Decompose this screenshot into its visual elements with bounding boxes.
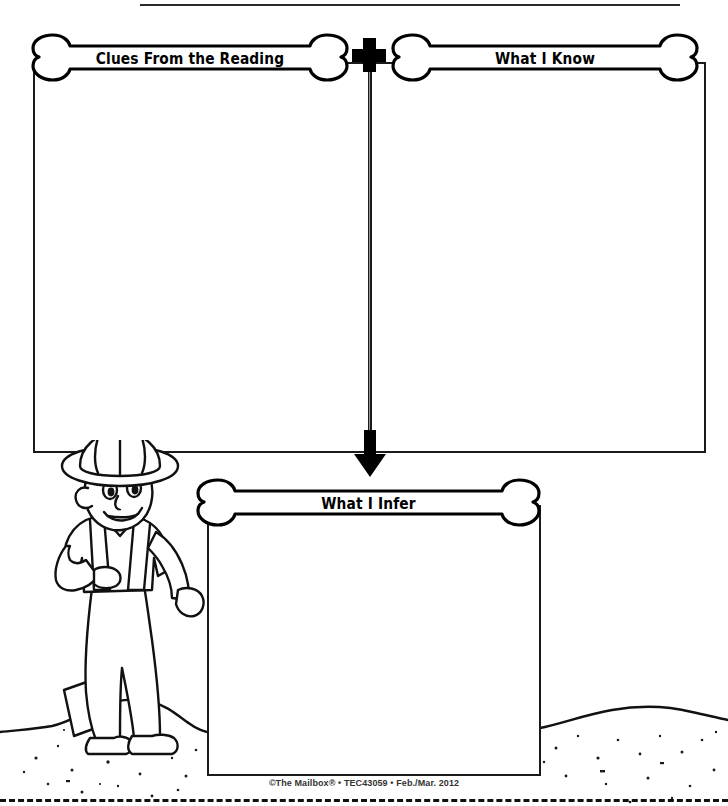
bone-banner-clues: Clues From the Reading (25, 27, 355, 89)
worksheet-page: Clues From the Reading What I Know (0, 0, 728, 806)
copyright-credit: ©The Mailbox® • TEC43059 • Feb./Mar. 201… (0, 778, 728, 788)
connector-line (369, 72, 370, 432)
bone-label-infer: What I Infer (215, 472, 522, 534)
archaeologist-character (55, 440, 203, 754)
cut-line (0, 799, 728, 802)
clues-answer-box[interactable] (33, 62, 370, 453)
bone-label-clues: Clues From the Reading (48, 27, 332, 89)
infer-answer-box[interactable] (207, 505, 541, 776)
plus-icon (352, 38, 386, 72)
plus-icon-vertical-bar (363, 38, 376, 72)
bone-label-know: What I Know (407, 27, 682, 89)
dirt-stipple-right (543, 731, 717, 804)
bone-banner-know: What I Know (385, 27, 705, 89)
top-rule (140, 4, 680, 6)
bone-banner-infer: What I Infer (190, 472, 547, 534)
know-answer-box[interactable] (370, 62, 706, 453)
